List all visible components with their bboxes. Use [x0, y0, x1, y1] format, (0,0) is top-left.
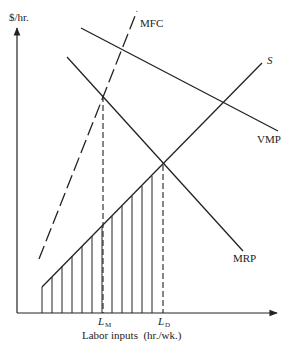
svg-text:M: M	[105, 321, 112, 329]
svg-text:L: L	[97, 315, 104, 327]
hatched-area	[42, 176, 152, 313]
mfc-curve-label: MFC	[140, 17, 163, 29]
ld-tick-label: L D	[157, 315, 170, 329]
mrp-curve	[67, 57, 243, 251]
svg-text:D: D	[165, 321, 170, 329]
y-axis-label: $/hr.	[9, 11, 29, 23]
vmp-curve-label: VMP	[257, 133, 281, 145]
lm-tick-label: L M	[97, 315, 112, 329]
svg-text:L: L	[157, 315, 164, 327]
x-axis-label: Labor inputs (hr./wk.)	[82, 329, 182, 342]
supply-curve-label: S	[267, 54, 273, 66]
labor-market-diagram: $/hr. S MFC VMP MRP L M L D Labor inputs…	[0, 0, 290, 343]
mrp-curve-label: MRP	[233, 252, 256, 264]
